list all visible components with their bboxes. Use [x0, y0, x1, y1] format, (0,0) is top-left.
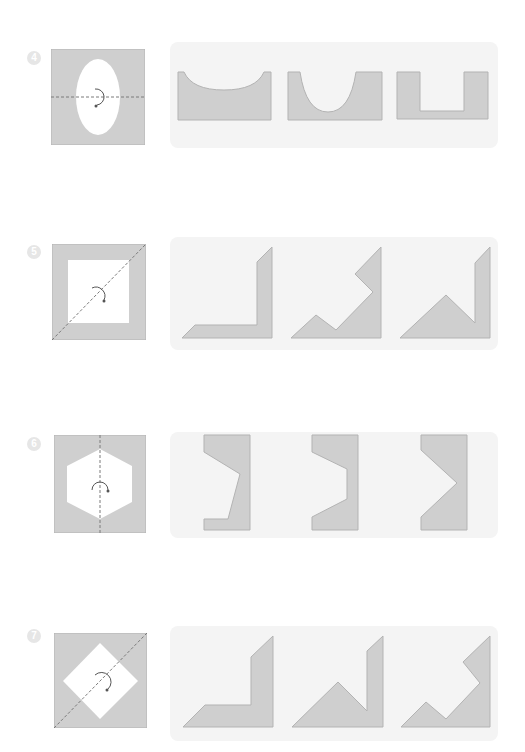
- option-shape[interactable]: [401, 636, 490, 727]
- option-shape[interactable]: [312, 435, 358, 530]
- option-shape[interactable]: [292, 636, 383, 727]
- source-figure-ellipse: [51, 49, 145, 145]
- problem-number-badge: 6: [27, 437, 41, 451]
- option-shape[interactable]: [421, 435, 467, 530]
- problem-number-badge: 7: [27, 629, 41, 643]
- answer-options-card: [170, 432, 498, 538]
- problem-number-badge: 4: [27, 51, 41, 65]
- source-figure-square-frame: [52, 244, 146, 340]
- answer-options-card: [170, 237, 498, 350]
- option-shape[interactable]: [204, 435, 250, 530]
- answer-options-card: [170, 626, 498, 741]
- source-figure-diamond: [54, 633, 147, 728]
- option-shape[interactable]: [397, 72, 488, 119]
- option-shape[interactable]: [178, 72, 271, 120]
- option-shape[interactable]: [182, 247, 272, 338]
- option-shape[interactable]: [291, 247, 381, 338]
- source-figure-hexagon: [54, 435, 146, 533]
- option-shape[interactable]: [183, 636, 273, 727]
- option-shape[interactable]: [288, 72, 382, 120]
- answer-options-card: [170, 42, 498, 148]
- problem-number-badge: 5: [27, 245, 41, 259]
- option-shape[interactable]: [400, 247, 490, 338]
